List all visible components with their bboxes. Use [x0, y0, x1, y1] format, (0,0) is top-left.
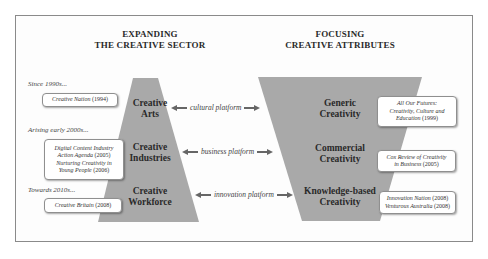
doc-line: Venturous Australia (2008): [385, 203, 450, 211]
doc-line: in Business (2005): [394, 161, 439, 169]
doc-line: Nurturing Creativity in: [56, 160, 111, 168]
document-entry: Creative Britain (2008): [55, 202, 111, 210]
era-label-1990s: Since 1990s...: [28, 80, 67, 88]
arrow-left-icon: [171, 105, 187, 111]
doc-line: Innovation Nation (2008): [387, 195, 448, 203]
platform-label: cultural platform: [190, 103, 241, 112]
document-box-cox-review: Cox Review of Creativity in Business (20…: [377, 150, 456, 172]
tier-commercial-creativity: Commercial Creativity: [305, 143, 375, 165]
arrow-right-icon: [277, 192, 293, 198]
tier-knowledge-based-creativity: Knowledge-based Creativity: [300, 186, 380, 208]
right-heading-line-2: CREATIVE ATTRIBUTES: [270, 40, 410, 51]
platform-business: business platform: [182, 147, 273, 156]
doc-line: Digital Content Industry: [55, 145, 114, 153]
document-box-2000s: Digital Content Industry Action Agenda (…: [44, 139, 124, 180]
document-box-all-our-futures: All Our Futures: Creativity, Culture and…: [377, 96, 457, 127]
left-heading-line-1: EXPANDING: [80, 29, 220, 40]
doc-line: Cox Review of Creativity: [387, 154, 447, 162]
doc-line: All Our Futures:: [397, 100, 437, 108]
document-box-creative-britain: Creative Britain (2008): [44, 198, 122, 213]
era-label-early-2000s: Arising early 2000s...: [28, 126, 88, 134]
tier-creative-industries: Creative Industries: [118, 142, 182, 164]
arrow-right-icon: [257, 149, 273, 155]
era-label-2010s: Towards 2010s...: [28, 186, 75, 194]
platform-label: innovation platform: [214, 190, 274, 199]
tier-creative-workforce: Creative Workforce: [118, 186, 182, 208]
right-heading: FOCUSING CREATIVE ATTRIBUTES: [270, 29, 410, 51]
tier-generic-creativity: Generic Creativity: [305, 98, 375, 120]
right-heading-line-1: FOCUSING: [270, 29, 410, 40]
arrow-left-icon: [182, 149, 198, 155]
doc-line: Action Agenda (2005): [58, 152, 111, 160]
platform-label: business platform: [201, 147, 254, 156]
document-entry: Creative Nation (1994): [52, 96, 108, 104]
platform-innovation: innovation platform: [195, 190, 293, 199]
left-heading: EXPANDING THE CREATIVE SECTOR: [80, 29, 220, 51]
doc-line: Young People (2006): [59, 167, 109, 175]
doc-line: Education (1999): [396, 115, 438, 123]
tier-creative-arts: Creative Arts: [124, 98, 176, 120]
document-box-creative-nation: Creative Nation (1994): [42, 93, 118, 107]
arrow-right-icon: [244, 105, 260, 111]
document-box-innovation-venturous: Innovation Nation (2008) Venturous Austr…: [379, 191, 456, 214]
left-heading-line-2: THE CREATIVE SECTOR: [80, 40, 220, 51]
arrow-left-icon: [195, 192, 211, 198]
doc-line: Creativity, Culture and: [389, 108, 444, 116]
platform-cultural: cultural platform: [171, 103, 260, 112]
